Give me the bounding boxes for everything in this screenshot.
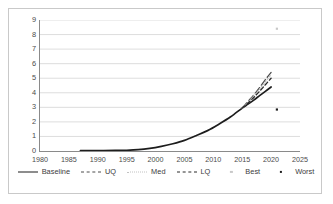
plot-area: 0123456789198019851990199520002005201020… [39, 20, 300, 152]
legend-marker-icon [221, 169, 241, 176]
plot-svg [40, 20, 300, 151]
legend-line-icon [127, 169, 147, 176]
legend-label: Med [151, 168, 165, 175]
legend-item-med[interactable]: Med [127, 168, 165, 175]
plot-wrapper: 0123456789198019851990199520002005201020… [9, 9, 323, 157]
legend-item-lq[interactable]: LQ [177, 168, 211, 175]
xtick-label: 2025 [292, 156, 308, 163]
xtick-label: 2000 [148, 156, 164, 163]
legend-line-icon [177, 169, 197, 176]
series-line-baseline [80, 87, 271, 151]
ytick-label: 5 [32, 75, 36, 82]
legend-label: LQ [201, 168, 211, 175]
legend-label: UQ [105, 168, 116, 175]
legend-item-baseline[interactable]: Baseline [18, 168, 70, 175]
data-marker-worst [276, 108, 278, 110]
xtick-label: 2015 [234, 156, 250, 163]
xtick-label: 2005 [176, 156, 192, 163]
legend-item-worst[interactable]: Worst [271, 168, 314, 175]
legend-label: Best [245, 168, 260, 175]
ytick-label: 2 [32, 118, 36, 125]
chart-frame: 0123456789198019851990199520002005201020… [8, 8, 322, 194]
xtick-label: 1985 [61, 156, 77, 163]
legend-label: Worst [295, 168, 314, 175]
legend-label: Baseline [42, 168, 70, 175]
ytick-label: 7 [32, 45, 36, 52]
xtick-label: 1990 [90, 156, 106, 163]
ytick-label: 1 [32, 133, 36, 140]
ytick-label: 6 [32, 60, 36, 67]
xtick-label: 2020 [263, 156, 279, 163]
ytick-label: 3 [32, 104, 36, 111]
legend-line-icon [18, 169, 38, 176]
ytick-label: 8 [32, 31, 36, 38]
xtick-label: 1995 [119, 156, 135, 163]
legend-marker-icon [271, 169, 291, 176]
ytick-label: 0 [32, 147, 36, 154]
legend-line-icon [81, 169, 101, 176]
ytick-label: 9 [32, 16, 36, 23]
legend-item-uq[interactable]: UQ [81, 168, 116, 175]
chart-legend: BaselineUQMedLQBestWorst [9, 165, 323, 179]
data-marker-best [276, 28, 278, 30]
xtick-label: 1980 [32, 156, 48, 163]
ytick-label: 4 [32, 89, 36, 96]
xtick-label: 2010 [205, 156, 221, 163]
legend-item-best[interactable]: Best [221, 168, 260, 175]
